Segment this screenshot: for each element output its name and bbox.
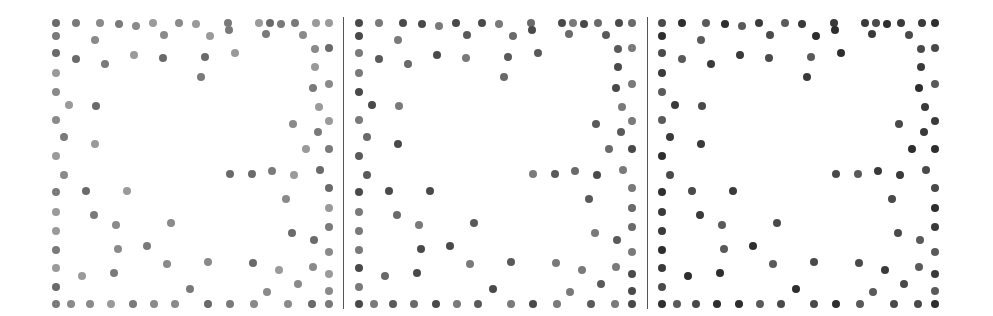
dot	[917, 45, 925, 53]
dot	[628, 44, 636, 52]
dot	[716, 269, 724, 277]
dot	[277, 20, 285, 28]
dot	[658, 49, 666, 57]
dot	[628, 223, 636, 231]
dot	[290, 171, 298, 179]
dot	[628, 117, 636, 125]
dot	[931, 184, 939, 192]
dot	[370, 300, 378, 308]
dot	[684, 272, 692, 280]
dot	[658, 246, 666, 254]
dot	[452, 19, 460, 27]
dot	[773, 219, 781, 227]
dot	[658, 69, 666, 77]
dot	[186, 285, 194, 293]
dot	[777, 300, 785, 308]
dot	[792, 285, 800, 293]
dot	[314, 128, 322, 136]
dot	[393, 211, 401, 219]
dot	[446, 242, 454, 250]
dot	[52, 116, 60, 124]
dot	[803, 73, 811, 81]
dot	[299, 31, 307, 39]
dot	[552, 259, 560, 267]
dot	[617, 128, 625, 136]
dot	[291, 19, 299, 27]
dot	[807, 53, 815, 61]
dot	[931, 300, 939, 308]
dot	[702, 19, 710, 27]
dot	[325, 44, 333, 52]
dot	[931, 248, 939, 256]
dot	[914, 300, 922, 308]
dot	[916, 236, 924, 244]
dot	[611, 300, 619, 308]
dot	[90, 211, 98, 219]
dot	[192, 20, 200, 28]
dot	[697, 140, 705, 148]
dot	[52, 300, 60, 308]
dot	[417, 245, 425, 253]
dot	[591, 229, 599, 237]
dot	[619, 166, 627, 174]
dot	[474, 300, 482, 308]
dot	[363, 133, 371, 141]
dot	[60, 133, 68, 141]
dot	[507, 258, 515, 266]
dot	[82, 187, 90, 195]
dot	[810, 300, 818, 308]
dot	[163, 260, 171, 268]
dot	[101, 60, 109, 68]
dot	[355, 246, 363, 254]
dot	[580, 20, 588, 28]
dot	[658, 188, 666, 196]
dot	[470, 219, 478, 227]
dot	[325, 145, 333, 153]
dot	[67, 300, 75, 308]
dot	[91, 140, 99, 148]
dot	[262, 30, 270, 38]
dot	[325, 223, 333, 231]
dot	[112, 221, 120, 229]
dot	[86, 300, 94, 308]
dot	[275, 266, 283, 274]
dot	[325, 204, 333, 212]
dot	[735, 300, 743, 308]
dot	[614, 45, 622, 53]
dot	[204, 258, 212, 266]
dot	[316, 166, 324, 174]
dot	[206, 32, 214, 40]
dot	[854, 170, 862, 178]
dot	[325, 117, 333, 125]
dot	[432, 300, 440, 308]
dot	[355, 49, 363, 57]
dot	[96, 19, 104, 27]
panel-divider	[647, 17, 648, 309]
dot	[149, 19, 157, 27]
dot	[931, 287, 939, 295]
dot	[52, 246, 60, 254]
dot	[628, 204, 636, 212]
dot	[756, 300, 764, 308]
dot	[688, 187, 696, 195]
dot	[920, 128, 928, 136]
dot	[130, 51, 138, 59]
dot	[613, 236, 621, 244]
dot	[129, 300, 137, 308]
dot	[150, 300, 158, 308]
dot	[658, 264, 666, 272]
dot	[658, 208, 666, 216]
dot	[658, 300, 666, 308]
dot	[462, 54, 470, 62]
dot	[453, 300, 461, 308]
dot	[394, 36, 402, 44]
dot	[72, 55, 80, 63]
dot	[325, 248, 333, 256]
dot	[658, 152, 666, 160]
dot	[489, 285, 497, 293]
dot	[769, 260, 777, 268]
dot	[628, 270, 636, 278]
dot	[658, 19, 666, 27]
dot	[666, 171, 674, 179]
dot	[225, 26, 233, 34]
